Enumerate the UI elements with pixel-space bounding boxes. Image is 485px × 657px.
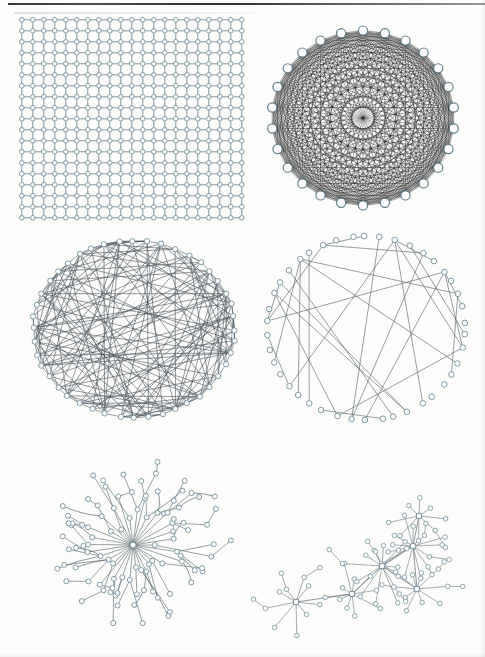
graph-node <box>196 172 201 177</box>
graph-node <box>205 522 210 527</box>
graph-node <box>218 29 223 34</box>
graph-node <box>185 128 190 133</box>
graph-node <box>42 216 47 221</box>
graph-node <box>20 194 25 199</box>
graph-node <box>75 139 80 144</box>
graph-node <box>115 591 120 596</box>
graph-node <box>351 234 357 240</box>
graph-node <box>196 139 201 144</box>
graph-node <box>185 51 190 56</box>
graph-node <box>199 260 204 265</box>
graph-node <box>174 40 179 45</box>
graph-node <box>86 161 91 166</box>
graph-node <box>143 493 148 498</box>
graph-node <box>97 73 102 78</box>
graph-node <box>293 599 299 605</box>
graph-node <box>163 18 168 23</box>
graph-node <box>53 139 58 144</box>
graph-node <box>436 567 441 572</box>
graph-node <box>174 216 179 221</box>
graph-node <box>437 601 442 606</box>
graph-node <box>56 269 61 274</box>
graph-node <box>163 139 168 144</box>
page-edge-shadow-right <box>480 0 485 657</box>
graph-node <box>229 194 234 199</box>
graph-node <box>283 64 292 73</box>
graph-node <box>431 258 437 264</box>
graph-node <box>229 216 234 221</box>
graph-node <box>266 306 272 312</box>
graph-node <box>141 62 146 67</box>
graph-node <box>31 117 36 122</box>
graph-node <box>108 205 113 210</box>
graph-node <box>141 161 146 166</box>
graph-node <box>410 543 416 549</box>
graph-edge <box>172 523 207 525</box>
graph-node <box>349 591 355 597</box>
graph-node <box>42 128 47 133</box>
graph-node <box>176 505 181 510</box>
graph-node <box>218 139 223 144</box>
graph-node <box>108 139 113 144</box>
graph-node <box>31 183 36 188</box>
graph-node <box>196 194 201 199</box>
graph-node <box>53 29 58 34</box>
graph-node <box>97 117 102 122</box>
graph-node <box>173 247 178 252</box>
graph-node <box>163 205 168 210</box>
graph-node <box>80 522 85 527</box>
graph-node <box>119 527 124 532</box>
graph-node <box>340 585 345 590</box>
graph-edge <box>136 567 137 594</box>
graph-node <box>20 73 25 78</box>
graph-node <box>31 62 36 67</box>
graph-node <box>207 150 212 155</box>
graph-node <box>130 239 135 244</box>
graph-node <box>163 194 168 199</box>
graph-node <box>75 62 80 67</box>
graph-node <box>240 40 245 45</box>
graph-node <box>31 29 36 34</box>
graph-node <box>106 557 111 562</box>
graph-node <box>42 84 47 89</box>
graph-node <box>152 150 157 155</box>
graph-node <box>75 194 80 199</box>
graph-node <box>86 216 91 221</box>
graph-node <box>279 571 284 576</box>
graph-node <box>174 183 179 188</box>
graph-node <box>119 62 124 67</box>
graph-node <box>444 144 453 153</box>
random-graph-sparse-nodes <box>264 233 467 423</box>
graph-node <box>42 183 47 188</box>
graph-node <box>20 183 25 188</box>
graph-node <box>433 528 438 533</box>
graph-node <box>119 183 124 188</box>
graph-edge <box>296 602 320 605</box>
graph-node <box>64 84 69 89</box>
graph-node <box>130 106 135 111</box>
graph-node <box>207 172 212 177</box>
graph-node <box>218 95 223 100</box>
graph-node <box>108 161 113 166</box>
graph-node <box>173 406 178 411</box>
graph-node <box>64 579 69 584</box>
graph-node <box>378 606 383 611</box>
graph-node <box>228 350 233 355</box>
graph-node <box>185 40 190 45</box>
graph-node <box>108 73 113 78</box>
graph-node <box>185 172 190 177</box>
graph-node <box>152 543 157 548</box>
graph-node <box>141 194 146 199</box>
graph-node <box>97 40 102 45</box>
graph-node <box>152 216 157 221</box>
graph-node <box>127 516 132 521</box>
graph-node <box>166 613 171 618</box>
graph-node <box>335 413 341 419</box>
graph-node <box>64 205 69 210</box>
graph-node <box>240 139 245 144</box>
graph-node <box>306 401 312 407</box>
graph-node <box>358 26 367 35</box>
graph-node <box>272 290 278 296</box>
graph-node <box>31 216 36 221</box>
graph-node <box>119 172 124 177</box>
